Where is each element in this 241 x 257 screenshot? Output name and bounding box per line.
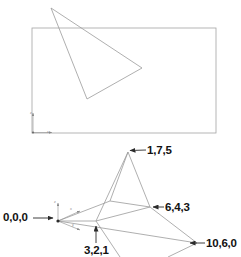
leader-apex: [130, 150, 146, 151]
vertex-label-right: 6,4,3: [165, 202, 190, 214]
axis-tag-z-top: z: [30, 112, 32, 116]
axis-tag-x-main: x: [70, 208, 72, 212]
viewport-rectangle: [32, 28, 216, 133]
edge-front-to-right: [96, 207, 150, 221]
figure-root: 1,7,5 6,4,3 10,6,0 0,0,0 3,2,1 z x z x y: [0, 0, 241, 257]
origin-axis-triad: [56, 203, 80, 230]
edge-origin-to-farright: [58, 221, 197, 243]
axis-tag-y-main: y: [72, 224, 74, 228]
vertex-label-front: 3,2,1: [84, 245, 109, 257]
edge-left-to-right: [110, 201, 150, 207]
axis-tag-x-top: x: [47, 131, 49, 135]
edge-left-to-origin: [58, 201, 110, 221]
top-panel-group: [32, 8, 216, 134]
edge-apex-to-left: [110, 152, 128, 201]
axis-x: [58, 211, 80, 221]
diagram-canvas: [0, 0, 241, 257]
origin-dot: [56, 219, 59, 222]
clipped-triangle: [51, 8, 142, 99]
vertex-label-far-right: 10,6,0: [206, 238, 237, 250]
axis-tag-z-main: z: [54, 201, 56, 205]
edge-apex-to-front: [96, 152, 128, 221]
vertex-label-origin: 0,0,0: [3, 212, 28, 224]
edge-apex-to-right: [128, 152, 150, 207]
edge-farright-to-bottom: [168, 243, 197, 257]
vertex-label-apex: 1,7,5: [147, 145, 172, 157]
